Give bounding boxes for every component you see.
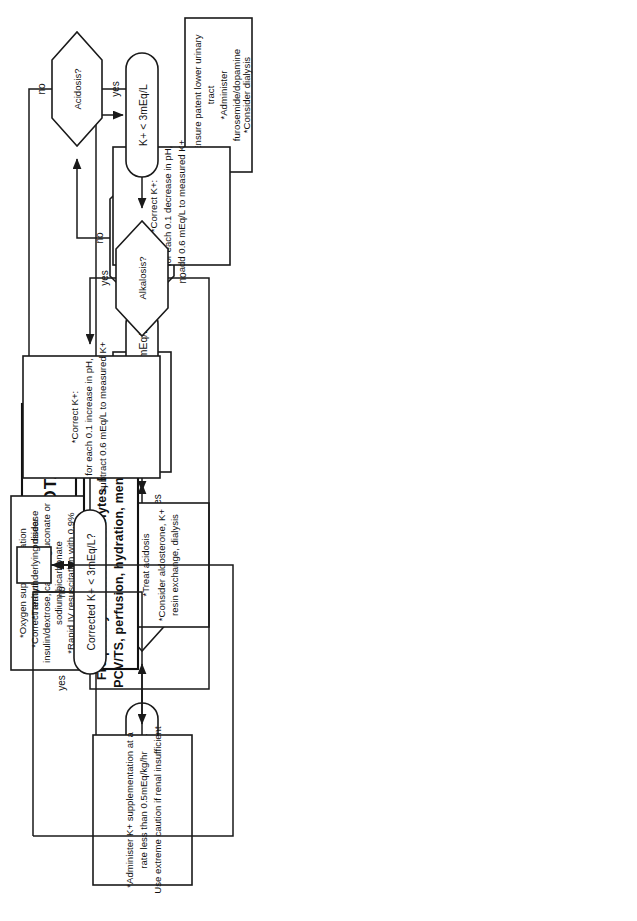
administer-line-1: *Administer K+ supplementation at a	[124, 732, 135, 888]
correct-alk-line-1: *Correct K+:	[69, 391, 80, 444]
edge-acidosis-no-rail	[29, 89, 52, 315]
edge-label-correctedlow-yes: yes	[56, 675, 67, 691]
correct-acid-line-3: add 0.6 mEq/L to measured K+	[176, 139, 187, 272]
urinary-line-2: tract	[205, 85, 216, 104]
correct-acid-line-1: *Correct K+:	[148, 180, 159, 233]
node-administer-k: *Administer K+ supplementation at a rate…	[93, 726, 192, 894]
treat-underlying-label: *Treat underlying disease	[29, 511, 40, 619]
correct-alk-line-2: for each 0.1 increase in pH,	[83, 358, 94, 475]
flowchart-canvas: POTASSIUM K+ > 5.5mEq/L Is perfusion ade…	[0, 0, 637, 921]
node-acidosis: Acidosis?	[52, 32, 102, 146]
acidosis-label: Acidosis?	[72, 68, 83, 109]
node-correct-k-alkalosis: *Correct K+: for each 0.1 increase in pH…	[23, 341, 160, 492]
urinary-line-5: *Consider dialysis	[241, 57, 252, 133]
node-k-low: K+ < 3mEq/L	[126, 53, 158, 177]
administer-line-2: rate less than 0.5mEq/kg/hr	[138, 751, 149, 869]
resus-line-4: sodium bicarbonate	[53, 541, 64, 625]
k-low-label: K+ < 3mEq/L	[138, 84, 149, 146]
correct-alk-line-3: subtract 0.6 mEq/L to measured K+	[97, 341, 108, 492]
potassium-flowchart-svg: POTASSIUM K+ > 5.5mEq/L Is perfusion ade…	[0, 0, 637, 921]
urinary-line-3: *Administer	[218, 70, 229, 120]
edge-renalfail-no	[77, 159, 110, 238]
administer-line-3: Use extreme caution if renal insufficien…	[152, 726, 163, 894]
urinary-line-1: *Ensure patent lower urinary	[192, 34, 203, 155]
rotated-diagram-group: POTASSIUM K+ > 5.5mEq/L Is perfusion ade…	[0, 0, 637, 921]
alkalosis-label: Alkalosis?	[137, 256, 148, 299]
edge-alkalosis-yes	[90, 278, 116, 344]
